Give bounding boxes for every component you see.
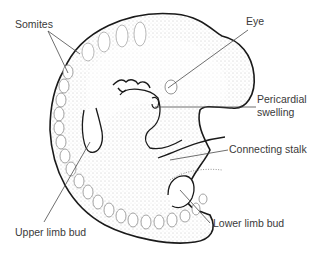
label-upper-limb-bud: Upper limb bud <box>15 226 86 238</box>
embryo-diagram: Somites Eye Pericardial swelling Connect… <box>0 0 314 253</box>
label-pericardial-line1: Pericardial <box>257 93 307 105</box>
label-lower-limb-bud: Lower limb bud <box>213 217 284 229</box>
eye-shape <box>165 80 177 94</box>
label-eye: Eye <box>246 15 264 27</box>
label-connecting-stalk: Connecting stalk <box>229 143 307 155</box>
leader-somites-1 <box>48 31 80 54</box>
leader-somites-2 <box>48 31 68 73</box>
embryo-illustration <box>0 0 314 253</box>
label-somites: Somites <box>15 18 53 30</box>
label-pericardial-line2: swelling <box>257 106 294 118</box>
